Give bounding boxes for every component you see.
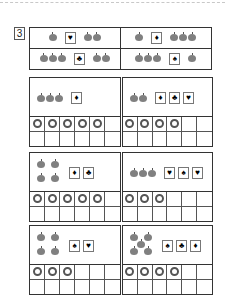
grid-cell[interactable]	[197, 132, 212, 147]
grid-cell[interactable]	[182, 265, 197, 280]
grid-cell[interactable]	[30, 117, 45, 132]
grid-cell[interactable]	[153, 192, 168, 207]
grid-cell[interactable]	[60, 280, 75, 295]
grid-cell[interactable]	[182, 117, 197, 132]
grid-cell[interactable]	[30, 265, 45, 280]
grid-cell[interactable]	[60, 192, 75, 207]
spade-card-icon: ♠	[162, 240, 173, 252]
apple-icon	[139, 170, 147, 177]
grid-cell[interactable]	[167, 132, 182, 147]
grid-cell[interactable]	[45, 132, 60, 147]
grid-cell[interactable]	[138, 192, 153, 207]
grid-cell[interactable]	[75, 192, 90, 207]
grid-cell[interactable]	[30, 132, 45, 147]
club-card-icon: ♣	[74, 53, 85, 65]
grid-cell[interactable]	[90, 207, 105, 222]
apple-icon	[130, 234, 138, 241]
apple-icon	[58, 55, 66, 62]
grid-cell[interactable]	[75, 132, 90, 147]
grid-cell[interactable]	[75, 265, 90, 280]
apple-icon	[51, 175, 59, 182]
grid-cell[interactable]	[197, 192, 212, 207]
grid-cell[interactable]	[30, 280, 45, 295]
grid-cell[interactable]	[138, 117, 153, 132]
grid-cell[interactable]	[167, 280, 182, 295]
grid-cell[interactable]	[153, 207, 168, 222]
grid-cell[interactable]	[105, 117, 120, 132]
apple-icon	[37, 175, 45, 182]
diamond-card-icon: ♦	[69, 167, 80, 179]
grid-cell[interactable]	[197, 265, 212, 280]
grid-cell[interactable]	[182, 207, 197, 222]
grid-cell[interactable]	[138, 265, 153, 280]
grid-cell[interactable]	[182, 192, 197, 207]
grid-cell[interactable]	[197, 207, 212, 222]
grid-cell[interactable]	[90, 192, 105, 207]
grid-cell[interactable]	[90, 132, 105, 147]
grid-cell[interactable]	[153, 132, 168, 147]
grid-cell[interactable]	[90, 265, 105, 280]
grid-cell[interactable]	[153, 280, 168, 295]
grid-cell[interactable]	[75, 207, 90, 222]
grid-cell[interactable]	[45, 117, 60, 132]
grid-cell[interactable]	[123, 207, 138, 222]
grid-cell[interactable]	[60, 117, 75, 132]
heart-card-icon: ♥	[183, 92, 194, 104]
grid-cell[interactable]	[138, 280, 153, 295]
grid-cell[interactable]	[153, 265, 168, 280]
apple-icon	[51, 161, 59, 168]
apple-icon	[84, 34, 92, 41]
grid-cell[interactable]	[90, 117, 105, 132]
apple-icon	[135, 34, 143, 41]
grid-cell[interactable]	[123, 132, 138, 147]
apple-icon	[153, 55, 161, 62]
grid-cell[interactable]	[60, 132, 75, 147]
grid-cell[interactable]	[105, 265, 120, 280]
grid-cell[interactable]	[138, 207, 153, 222]
grid-cell[interactable]	[45, 207, 60, 222]
ring-icon	[33, 267, 42, 276]
heart-card-icon: ♥	[83, 240, 94, 252]
grid-cell[interactable]	[60, 207, 75, 222]
ring-icon	[93, 194, 102, 203]
spade-card-icon: ♠	[169, 53, 180, 65]
grid-cell[interactable]	[167, 117, 182, 132]
grid-cell[interactable]	[45, 192, 60, 207]
grid-cell[interactable]	[197, 117, 212, 132]
grid-cell[interactable]	[123, 265, 138, 280]
grid-cell[interactable]	[167, 265, 182, 280]
grid-cell[interactable]	[105, 192, 120, 207]
grid-cell[interactable]	[45, 265, 60, 280]
grid-cell[interactable]	[123, 192, 138, 207]
apple-icon	[188, 34, 196, 41]
grid-cell[interactable]	[45, 280, 60, 295]
grid-cell[interactable]	[75, 280, 90, 295]
answer-grid	[30, 116, 120, 146]
apple-icon	[130, 95, 138, 102]
apple-icon	[40, 55, 48, 62]
question-number: 3	[14, 27, 25, 40]
grid-cell[interactable]	[90, 280, 105, 295]
grid-cell[interactable]	[123, 117, 138, 132]
exercise-panel: ♦♣♥	[122, 77, 213, 147]
grid-cell[interactable]	[75, 117, 90, 132]
example-header-box: ♥♦♣♠	[29, 27, 212, 70]
grid-cell[interactable]	[182, 280, 197, 295]
ring-icon	[155, 119, 164, 128]
apple-icon	[37, 161, 45, 168]
grid-cell[interactable]	[153, 117, 168, 132]
grid-cell[interactable]	[105, 280, 120, 295]
grid-cell[interactable]	[182, 132, 197, 147]
ring-icon	[63, 194, 72, 203]
grid-cell[interactable]	[167, 207, 182, 222]
grid-cell[interactable]	[105, 132, 120, 147]
grid-cell[interactable]	[30, 192, 45, 207]
grid-cell[interactable]	[138, 132, 153, 147]
apple-icon	[93, 55, 101, 62]
grid-cell[interactable]	[123, 280, 138, 295]
grid-cell[interactable]	[167, 192, 182, 207]
grid-cell[interactable]	[60, 265, 75, 280]
grid-cell[interactable]	[197, 280, 212, 295]
grid-cell[interactable]	[105, 207, 120, 222]
grid-cell[interactable]	[30, 207, 45, 222]
